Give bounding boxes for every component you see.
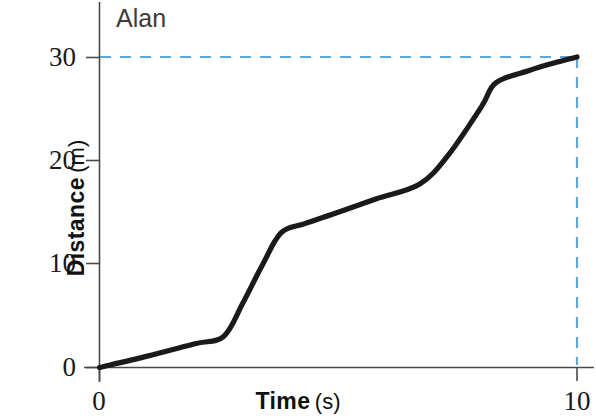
y-axis-title-unit: (m) [64,140,89,173]
x-axis-title-unit: (s) [315,389,341,414]
distance-time-curve [100,57,578,368]
series-label-alan: Alan [116,6,166,31]
y-axis-title: Distance (m) [65,140,88,277]
y-axis-title-text: Distance [63,177,89,276]
chart-canvas [0,0,596,416]
x-axis-title-text: Time [256,388,311,414]
y-tick-label-30: 30 [24,44,76,71]
distance-time-chart: Alan 30 20 10 0 0 10 Time (s) Distance (… [0,0,596,416]
y-tick-label-0: 0 [24,354,76,381]
x-axis-title: Time (s) [256,390,341,413]
x-tick-label-10: 10 [564,388,591,415]
x-tick-label-0: 0 [92,388,106,415]
